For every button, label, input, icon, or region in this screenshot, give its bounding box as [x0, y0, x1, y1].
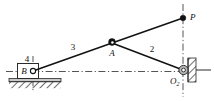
- linkage-diagram: 4 3 2 B A P O2: [0, 0, 214, 101]
- ground-support-left: [9, 79, 61, 89]
- label-point-p: P: [189, 12, 196, 22]
- joint-a: [109, 39, 116, 46]
- ground-hatch-block: [9, 82, 61, 89]
- label-pivot-o2-subscript: 2: [177, 81, 180, 87]
- label-joint-a: A: [108, 48, 115, 58]
- wall-hatch-block: [188, 58, 196, 82]
- pivot-o2-hole: [182, 68, 186, 72]
- ground-support-right: [188, 58, 211, 82]
- label-link-3: 3: [71, 42, 76, 52]
- joint-a-hole: [111, 41, 114, 44]
- point-p-marker: [180, 15, 186, 21]
- label-joint-b: B: [21, 66, 27, 76]
- label-pivot-o2: O2: [170, 76, 180, 87]
- mechanism-drawing: 4 3 2 B A P O2: [0, 0, 214, 101]
- label-link-2: 2: [150, 44, 155, 54]
- pivot-o2: [179, 65, 188, 74]
- joint-b: [30, 68, 35, 73]
- label-link-4: 4: [25, 54, 30, 64]
- link-2-crank: [112, 43, 183, 70]
- link-extension-ap: [112, 18, 183, 43]
- joint-b-marker: [30, 68, 35, 73]
